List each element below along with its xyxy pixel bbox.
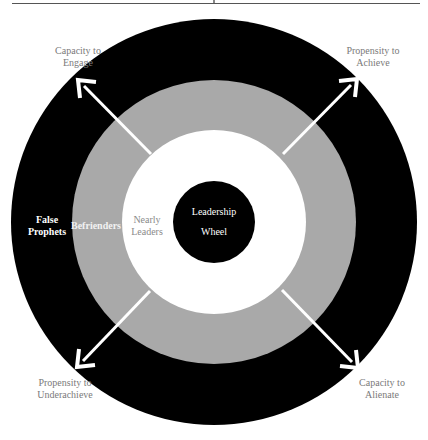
label-false-prophets: False Prophets [22, 214, 72, 238]
label-line: Leadership [174, 206, 254, 218]
label-line: Prophets [22, 226, 72, 238]
label-nearly-leaders: Nearly Leaders [122, 214, 172, 238]
label-line: Befrienders [70, 220, 122, 232]
label-line: Nearly [122, 214, 172, 226]
label-line: Alienate [342, 389, 422, 401]
label-line: Achieve [330, 57, 416, 69]
label-line: Capacity to [342, 377, 422, 389]
label-line: False [22, 214, 72, 226]
label-line: Wheel [174, 226, 254, 238]
label-line: Propensity to [22, 377, 108, 389]
label-line: Underachieve [22, 389, 108, 401]
label-propensity-to-achieve: Propensity to Achieve [330, 45, 416, 69]
label-capacity-to-alienate: Capacity to Alienate [342, 377, 422, 401]
label-line: Capacity to [38, 45, 118, 57]
label-capacity-to-engage: Capacity to Engage [38, 45, 118, 69]
label-line: Leaders [122, 226, 172, 238]
label-line: Engage [38, 57, 118, 69]
label-befrienders: Befrienders [70, 220, 122, 232]
label-line: Propensity to [330, 45, 416, 57]
label-leadership-wheel: Leadership Wheel [174, 206, 254, 238]
label-propensity-to-underachieve: Propensity to Underachieve [22, 377, 108, 401]
